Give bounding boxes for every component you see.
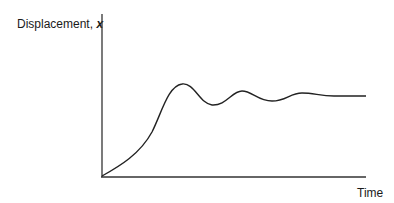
displacement-curve: [102, 84, 366, 176]
chart-plot: [0, 0, 394, 203]
